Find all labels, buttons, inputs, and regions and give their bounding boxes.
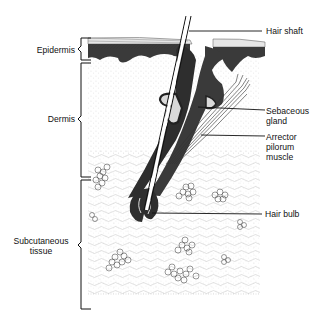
label-dermis: Dermis bbox=[10, 114, 75, 124]
label-hair-bulb-text: Hair bulb bbox=[265, 209, 299, 219]
label-subcutaneous-line1: Subcutaneous bbox=[6, 236, 76, 246]
label-arrector-pilorum: Arrector pilorum muscle bbox=[266, 132, 297, 162]
label-sebaceous-line1: Sebaceous bbox=[266, 106, 309, 116]
label-hair-bulb: Hair bulb bbox=[265, 209, 299, 219]
label-subcutaneous: Subcutaneous tissue bbox=[6, 236, 76, 256]
label-dermis-text: Dermis bbox=[48, 114, 75, 124]
label-hair-shaft: Hair shaft bbox=[266, 26, 303, 36]
label-arrector-line2: pilorum bbox=[266, 142, 297, 152]
label-epidermis: Epidermis bbox=[10, 45, 75, 55]
label-sebaceous-gland: Sebaceous gland bbox=[266, 106, 309, 126]
label-epidermis-text: Epidermis bbox=[37, 45, 75, 55]
label-arrector-line3: muscle bbox=[266, 152, 297, 162]
label-sebaceous-line2: gland bbox=[266, 116, 309, 126]
label-subcutaneous-line2: tissue bbox=[6, 246, 76, 256]
label-arrector-line1: Arrector bbox=[266, 132, 297, 142]
label-hair-shaft-text: Hair shaft bbox=[266, 26, 303, 36]
